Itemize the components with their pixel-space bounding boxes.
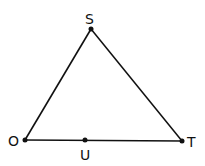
segment-ot xyxy=(25,140,182,141)
point-s xyxy=(89,27,94,32)
triangle-diagram: S O T U xyxy=(0,0,205,166)
segment-os xyxy=(25,29,91,140)
label-u: U xyxy=(80,147,90,163)
point-u xyxy=(83,138,88,143)
label-t: T xyxy=(186,134,196,150)
point-o xyxy=(23,138,28,143)
label-s: S xyxy=(85,11,94,27)
label-o: O xyxy=(8,133,19,149)
segment-st xyxy=(91,29,182,141)
point-t xyxy=(180,139,185,144)
